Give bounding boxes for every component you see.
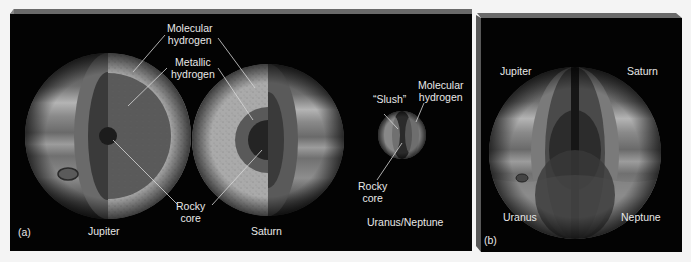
label-line-2: hydrogen: [171, 68, 215, 80]
label-slush: “Slush”: [373, 93, 406, 105]
label-rocky-core: Rocky core: [176, 200, 205, 224]
label-line-1: Rocky: [176, 200, 205, 212]
label-line-1: Molecular: [418, 79, 464, 91]
quadrant-label-jupiter: Jupiter: [500, 65, 532, 77]
label-line-2: hydrogen: [418, 91, 464, 103]
label-uranus-rocky-core: Rocky core: [358, 180, 387, 204]
quadrant-label-neptune: Neptune: [621, 211, 661, 223]
label-line-2: core: [358, 192, 387, 204]
saturn-cutaway: [192, 64, 344, 216]
label-line-1: Metallic: [171, 56, 215, 68]
label-uranus-molecular-hydrogen: Molecular hydrogen: [418, 79, 464, 103]
panel-b-tag: (b): [484, 234, 497, 246]
giant-planet-interiors-figure: Molecular hydrogen Metallic hydrogen Roc…: [0, 0, 691, 262]
figure-graphics: [0, 0, 691, 262]
label-metallic-hydrogen: Metallic hydrogen: [171, 56, 215, 80]
jupiter-cutaway: [25, 53, 191, 219]
label-line-2: hydrogen: [167, 34, 213, 46]
quadrant-label-saturn: Saturn: [627, 65, 658, 77]
label-line-2: core: [176, 212, 205, 224]
label-molecular-hydrogen: Molecular hydrogen: [167, 22, 213, 46]
quadrant-label-uranus: Uranus: [503, 211, 537, 223]
planet-name-saturn: Saturn: [251, 225, 282, 237]
label-line-1: Molecular: [167, 22, 213, 34]
label-line-1: Rocky: [358, 180, 387, 192]
uranus-neptune-cutaway: [378, 111, 426, 159]
planet-name-jupiter: Jupiter: [88, 225, 120, 237]
planet-name-uranus-neptune: Uranus/Neptune: [367, 216, 443, 228]
panel-a-tag: (a): [18, 226, 31, 238]
